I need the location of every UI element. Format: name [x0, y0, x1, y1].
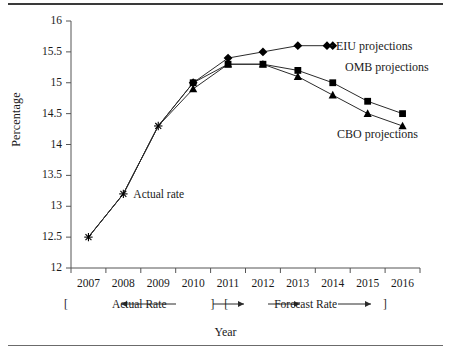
x-tick-label: 2016: [381, 278, 425, 289]
y-tick-label: 15: [28, 77, 62, 88]
bracket-label-actual: Actual Rate: [112, 298, 167, 310]
chart-axes: [66, 21, 420, 273]
legend-marker-eiu: [323, 41, 332, 50]
data-point-square: [329, 79, 336, 86]
data-point-square: [399, 110, 406, 117]
data-point-diamond: [293, 41, 302, 50]
legend-label-omb: OMB projections: [345, 61, 429, 73]
y-tick-label: 14: [28, 139, 62, 150]
data-point-diamond: [259, 47, 268, 56]
bracket-close-forecast: ]: [383, 298, 387, 310]
data-point-actual: [154, 122, 162, 130]
bracket-open-forecast: [: [224, 298, 228, 310]
phase-bracket-row: [Actual Rate][Forecast Rate]: [0, 298, 451, 310]
legend-label-cbo: CBO projections: [337, 128, 418, 140]
actual-rate-annotation: Actual rate: [133, 188, 184, 200]
data-point-triangle: [329, 91, 337, 99]
legend-label-eiu: EIU projections: [336, 40, 412, 52]
y-tick-label: 14.5: [28, 108, 62, 119]
data-point-actual: [84, 233, 92, 241]
bracket-open-actual: [: [64, 298, 68, 310]
legend-connector-lines: [323, 41, 333, 50]
chart-figure: Percentage 1212.51313.51414.51515.516 20…: [0, 0, 451, 357]
y-tick-label: 16: [28, 15, 62, 26]
y-tick-label: 13: [28, 200, 62, 211]
x-axis-title: Year: [0, 325, 451, 340]
data-point-actual: [119, 190, 127, 198]
y-tick-label: 12: [28, 262, 62, 273]
y-tick-label: 13.5: [28, 169, 62, 180]
bracket-close-actual: ]: [211, 298, 215, 310]
bottom-divider: [8, 345, 443, 346]
data-point-triangle: [364, 109, 372, 117]
data-point-square: [364, 98, 371, 105]
y-tick-label: 15.5: [28, 46, 62, 57]
y-tick-label: 12.5: [28, 231, 62, 242]
bracket-label-forecast: Forecast Rate: [274, 298, 337, 310]
